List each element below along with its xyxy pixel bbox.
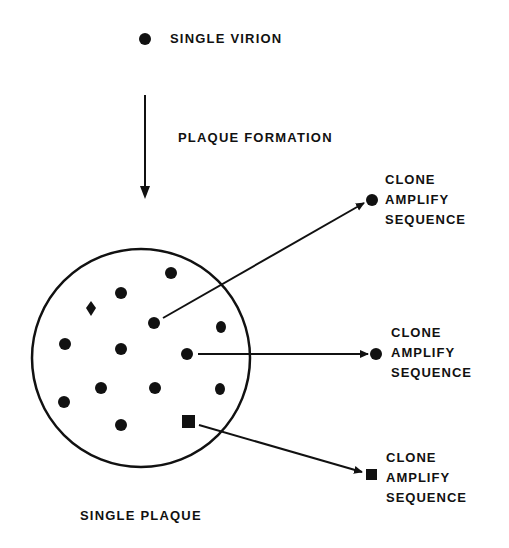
plaque-formation-label: PLAQUE FORMATION bbox=[178, 128, 333, 148]
amplify-label: AMPLIFY bbox=[385, 190, 466, 210]
clone-label: CLONE bbox=[391, 323, 472, 343]
single-virion-icon bbox=[139, 33, 151, 45]
sequence-label: SEQUENCE bbox=[385, 210, 466, 230]
single-virion-label: SINGLE VIRION bbox=[170, 29, 282, 49]
particle-icon bbox=[115, 287, 127, 299]
plaque-particles bbox=[58, 267, 226, 431]
particle-icon bbox=[216, 321, 226, 333]
clone-arrow-3 bbox=[199, 425, 362, 472]
plaque-formation-arrow bbox=[140, 95, 150, 199]
single-plaque-label: SINGLE PLAQUE bbox=[80, 506, 202, 526]
plaque-circle bbox=[32, 249, 250, 467]
clone-output-3-text: CLONE AMPLIFY SEQUENCE bbox=[386, 448, 467, 508]
clone-label: CLONE bbox=[385, 170, 466, 190]
particle-icon bbox=[181, 348, 193, 360]
particle-icon bbox=[59, 338, 71, 350]
particle-icon bbox=[148, 317, 160, 329]
amplify-label: AMPLIFY bbox=[386, 468, 467, 488]
clone-output-2-text: CLONE AMPLIFY SEQUENCE bbox=[391, 323, 472, 383]
clone-output-2-icon bbox=[370, 348, 382, 360]
square-particle-icon bbox=[182, 415, 195, 428]
particle-icon bbox=[149, 382, 161, 394]
particle-icon bbox=[165, 267, 177, 279]
sequence-label: SEQUENCE bbox=[386, 488, 467, 508]
clone-label: CLONE bbox=[386, 448, 467, 468]
clone-output-3-icon bbox=[366, 469, 377, 480]
clone-arrow-1 bbox=[163, 203, 364, 318]
diamond-particle-icon bbox=[86, 301, 96, 316]
particle-icon bbox=[58, 396, 70, 408]
clone-output-1-text: CLONE AMPLIFY SEQUENCE bbox=[385, 170, 466, 230]
particle-icon bbox=[215, 383, 225, 395]
clone-output-1-icon bbox=[366, 194, 378, 206]
particle-icon bbox=[115, 419, 127, 431]
amplify-label: AMPLIFY bbox=[391, 343, 472, 363]
sequence-label: SEQUENCE bbox=[391, 363, 472, 383]
particle-icon bbox=[95, 382, 107, 394]
particle-icon bbox=[115, 343, 127, 355]
